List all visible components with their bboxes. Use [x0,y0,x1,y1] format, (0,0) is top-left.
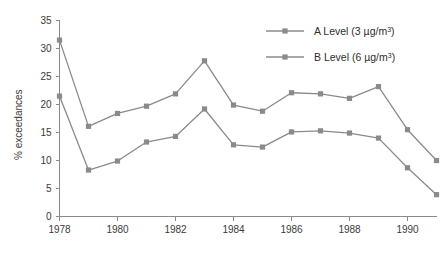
data-point-marker [405,165,410,170]
data-point-marker [289,129,294,134]
data-point-marker [231,102,236,107]
legend-item: B Level (6 µg/m3) [266,51,395,63]
y-tick-label: 30 [40,43,52,54]
data-point-marker [434,158,439,163]
x-tick-label: 1986 [280,224,303,235]
data-point-marker [347,96,352,101]
data-point-marker [173,91,178,96]
y-tick-label: 0 [46,211,52,222]
y-tick-label: 20 [40,99,52,110]
line-chart: 05101520253035 1978198019821984198619881… [0,0,444,253]
data-point-marker [115,158,120,163]
y-tick-label: 15 [40,127,52,138]
y-tick-label: 35 [40,15,52,26]
y-tick-label: 5 [46,183,52,194]
data-point-marker [115,111,120,116]
legend-label: A Level (3 µg/m3) [314,25,395,37]
data-point-marker [260,144,265,149]
data-point-marker [202,58,207,63]
data-point-marker [347,130,352,135]
chart-page: 05101520253035 1978198019821984198619881… [0,0,444,253]
data-point-marker [144,104,149,109]
data-point-marker [173,134,178,139]
y-tick-label: 10 [40,155,52,166]
legend-label: B Level (6 µg/m3) [314,51,395,63]
data-point-marker [231,142,236,147]
x-tick-label: 1982 [164,224,187,235]
legend-item: A Level (3 µg/m3) [266,25,395,37]
data-point-marker [86,124,91,129]
data-point-marker [405,127,410,132]
data-point-marker [260,109,265,114]
y-tick-label: 25 [40,71,52,82]
x-tick-label: 1978 [48,224,71,235]
data-point-marker [376,84,381,89]
x-tick-label: 1984 [222,224,245,235]
data-point-marker [202,106,207,111]
data-point-marker [289,90,294,95]
x-axis-ticks: 1978198019821984198619881990 [48,217,419,235]
data-series [57,94,439,198]
data-point-marker [318,91,323,96]
legend-marker [282,54,287,59]
y-axis-title: % exceedances [13,89,24,160]
x-tick-label: 1980 [106,224,129,235]
chart-legend: A Level (3 µg/m3)B Level (6 µg/m3) [266,25,395,63]
data-point-marker [86,167,91,172]
legend-marker [282,28,287,33]
x-tick-label: 1990 [396,224,419,235]
data-point-marker [318,128,323,133]
data-point-marker [144,139,149,144]
data-point-marker [57,38,62,43]
x-tick-label: 1988 [338,224,361,235]
y-axis-ticks: 05101520253035 [40,15,59,222]
data-point-marker [376,136,381,141]
data-point-marker [434,192,439,197]
data-point-marker [57,94,62,99]
